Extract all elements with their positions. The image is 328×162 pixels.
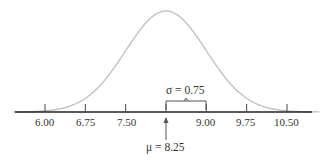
sigma-label: σ = 0.75 — [166, 84, 205, 96]
normal-distribution-figure: σ = 0.75 μ = 8.25 6.00 6.75 7.50 9.00 9.… — [0, 0, 328, 162]
mean-arrow-head — [164, 117, 169, 123]
bell-curve — [13, 11, 320, 112]
tick-label-7-50: 7.50 — [117, 116, 137, 128]
mu-label: μ = 8.25 — [146, 141, 185, 154]
tick-label-9-00: 9.00 — [196, 116, 216, 128]
tick-label-6-00: 6.00 — [35, 116, 55, 128]
tick-label-10-50: 10.50 — [274, 116, 299, 128]
tick-label-9-75: 9.75 — [236, 116, 256, 128]
figure-canvas: σ = 0.75 μ = 8.25 6.00 6.75 7.50 9.00 9.… — [0, 0, 328, 162]
sigma-bracket — [166, 98, 206, 110]
tick-label-6-75: 6.75 — [76, 116, 96, 128]
